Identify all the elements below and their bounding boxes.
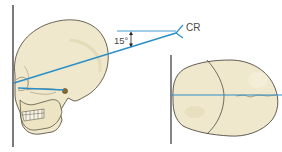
diagram-canvas [0, 0, 282, 152]
central-ray-label: CR [186, 23, 200, 33]
external-acoustic-meatus-icon [62, 88, 67, 93]
angle-arrow-icon [129, 32, 133, 48]
lateral-skull [14, 20, 108, 134]
superior-skull [173, 60, 278, 136]
angle-label: 15° [114, 36, 128, 46]
central-ray-arrow-icon [176, 25, 183, 38]
